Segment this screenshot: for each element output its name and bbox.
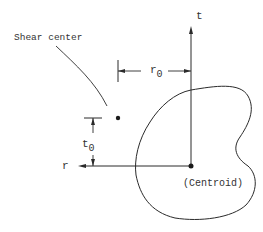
shear-center-dot [116,116,120,120]
centroid-dot [189,164,194,169]
r0-arrow-left [118,69,125,73]
centroid-label: (Centroid) [183,178,243,189]
r0-label: r0 [150,64,163,80]
diagram-canvas: t r (Centroid) Shear center r0 t0 [0,0,263,232]
r-axis-label: r [62,160,69,172]
shear-center-label: Shear center [14,32,82,43]
t0-arrow-bottom [91,159,95,166]
t-axis-label: t [196,10,203,22]
shear-center-leader-line [56,46,107,106]
t0-label: t0 [82,138,95,154]
r0-arrow-right [184,69,191,73]
cross-section-outline [136,86,256,219]
t-axis-arrowhead [189,26,193,34]
r-axis-arrowhead [78,164,86,168]
t0-arrow-top [91,118,95,125]
